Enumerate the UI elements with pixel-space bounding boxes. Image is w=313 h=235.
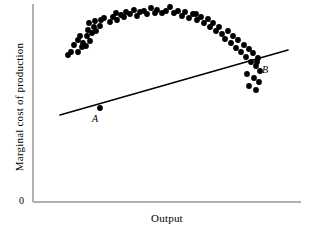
scatter-point xyxy=(233,45,239,51)
scatter-point xyxy=(75,49,81,55)
origin-label: 0 xyxy=(19,195,24,206)
scatter-point xyxy=(91,24,97,30)
scatter-point xyxy=(225,28,231,34)
scatter-point xyxy=(251,75,257,81)
trend-line-group xyxy=(60,50,288,115)
scatter-point xyxy=(241,42,247,48)
scatter-point xyxy=(182,9,188,15)
scatter-point xyxy=(121,14,127,20)
scatter-point xyxy=(246,83,252,89)
scatter-point xyxy=(97,23,103,29)
scatter-point xyxy=(86,20,92,26)
scatter-point xyxy=(87,38,93,44)
annotation-markers-group xyxy=(97,59,260,111)
scatter-point xyxy=(256,79,262,85)
annotation-marker-a xyxy=(97,105,103,111)
axes-group xyxy=(33,4,301,202)
scatter-point xyxy=(222,36,228,42)
scatter-point xyxy=(235,37,241,43)
scatter-point xyxy=(253,87,259,93)
plot-area xyxy=(0,0,313,235)
scatter-point xyxy=(144,11,150,17)
scatter-point xyxy=(113,10,119,16)
scatter-point xyxy=(216,24,222,30)
scatter-point xyxy=(238,49,244,55)
scatter-point xyxy=(154,7,160,13)
scatter-point xyxy=(228,40,234,46)
annotation-marker-b xyxy=(254,59,260,65)
scatter-points-group xyxy=(65,4,263,93)
scatter-point xyxy=(131,7,137,13)
y-axis-label: Marginal cost of production xyxy=(13,27,25,187)
scatter-point xyxy=(198,14,204,20)
trend-line xyxy=(60,50,288,115)
scatter-point xyxy=(80,40,86,46)
scatter-point xyxy=(65,52,71,58)
annotation-label-b: B xyxy=(262,64,268,75)
scatter-point xyxy=(85,27,91,33)
scatter-point xyxy=(230,33,236,39)
scatter-point xyxy=(193,11,199,17)
scatter-point xyxy=(205,16,211,22)
scatter-point xyxy=(175,8,181,14)
scatter-point xyxy=(101,15,107,21)
scatter-point xyxy=(250,50,256,56)
scatter-point xyxy=(114,17,120,23)
scatter-point xyxy=(92,18,98,24)
scatter-point xyxy=(219,31,225,37)
scatter-point xyxy=(244,71,250,77)
marginal-cost-scatter-chart: Marginal cost of production Output 0 A B xyxy=(0,0,313,235)
scatter-point xyxy=(84,33,90,39)
scatter-point xyxy=(148,5,154,11)
scatter-point xyxy=(243,54,249,60)
scatter-point xyxy=(167,4,173,10)
scatter-point xyxy=(107,19,113,25)
annotation-label-a: A xyxy=(92,113,98,124)
x-axis-label: Output xyxy=(33,212,301,224)
scatter-point xyxy=(210,20,216,26)
scatter-point xyxy=(71,42,77,48)
scatter-point xyxy=(77,33,83,39)
